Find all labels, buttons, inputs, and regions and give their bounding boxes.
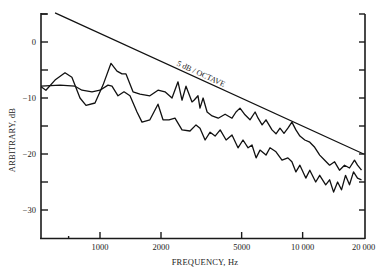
series-line-b [41,85,361,192]
y-tick-label: −20 [23,149,36,159]
x-tick-label: 20 000 [352,242,375,252]
plot-frame [40,13,365,239]
x-ticks: 10002000500010 00020 000 [69,232,376,252]
x-tick-label: 1000 [92,242,109,252]
y-tick-label: −30 [23,205,36,215]
x-tick-label: 10 000 [291,242,314,252]
y-tick-label: 0 [32,37,36,47]
x-tick-label: 5000 [233,242,250,252]
right-ticks [359,14,365,210]
x-tick-label: 2000 [153,242,170,252]
y-axis-title: ARBITRARY, dB [7,108,17,172]
spectrum-chart: 0−10−20−30 10002000500010 00020 000 5 dB… [0,0,387,274]
y-tick-label: −10 [23,93,36,103]
data-series [41,63,361,192]
reference-line-label: 5 dB / OCTAVE [175,59,226,89]
y-ticks: 0−10−20−30 [23,14,48,215]
x-axis-title: FREQUENCY, Hz [172,257,239,267]
